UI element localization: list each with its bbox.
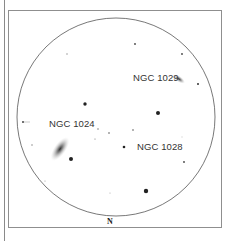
finder-chart-field (0, 0, 233, 241)
label-ngc1024: NGC 1024 (49, 118, 95, 129)
north-indicator: N (107, 217, 113, 226)
field-of-view-circle (17, 18, 215, 216)
star (31, 144, 32, 145)
star (156, 111, 160, 115)
star (83, 102, 86, 105)
star (181, 53, 183, 55)
star (109, 192, 110, 193)
star (69, 157, 73, 161)
star (44, 180, 45, 181)
star (123, 146, 126, 149)
star (132, 129, 134, 131)
star (97, 128, 98, 129)
label-ngc1029: NGC 1029 (133, 72, 179, 83)
star (144, 189, 148, 193)
label-ngc1028: NGC 1028 (137, 141, 183, 152)
star (108, 132, 110, 134)
star (94, 138, 95, 139)
star (183, 161, 185, 163)
star (197, 83, 199, 85)
star (22, 121, 24, 123)
star (66, 53, 67, 54)
star (134, 43, 136, 45)
star (181, 136, 183, 138)
